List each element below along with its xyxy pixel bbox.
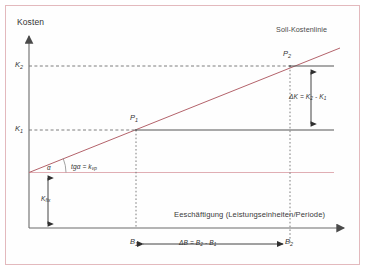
slope-annotation: tgα = kvp (71, 164, 97, 172)
y-axis-title: Kosten (17, 18, 44, 27)
delta-k-annotation: ΔK = K2 - K1 (289, 94, 327, 102)
x-tick-b2: B2 (285, 238, 293, 247)
x-tick-b1: B1 (130, 238, 138, 247)
delta-b-annotation: ΔB = B2 - B1 (179, 240, 217, 248)
angle-alpha-label: α (47, 165, 51, 171)
series-label-soll-kostenlinie: Soll-Kostenlinie (276, 26, 327, 33)
angle-arc (63, 159, 66, 173)
soll-kostenlinie (29, 48, 340, 173)
y-tick-k1: K1 (15, 125, 23, 134)
point-p2-label: P2 (283, 50, 291, 59)
x-axis-title: Eeschäftigung (Leistungseinheiten/Period… (174, 211, 325, 219)
y-tick-k2: K2 (15, 61, 23, 70)
cost-function-diagram: Kosten Soll-Kostenlinie K2 K1 B1 B2 P1 P… (0, 0, 367, 272)
point-p1-label: P1 (130, 114, 138, 123)
point-p2-marker (289, 65, 291, 67)
chart-canvas (0, 0, 367, 272)
point-p1-marker (135, 129, 137, 131)
fixed-costs-label: Kfix (41, 196, 51, 204)
